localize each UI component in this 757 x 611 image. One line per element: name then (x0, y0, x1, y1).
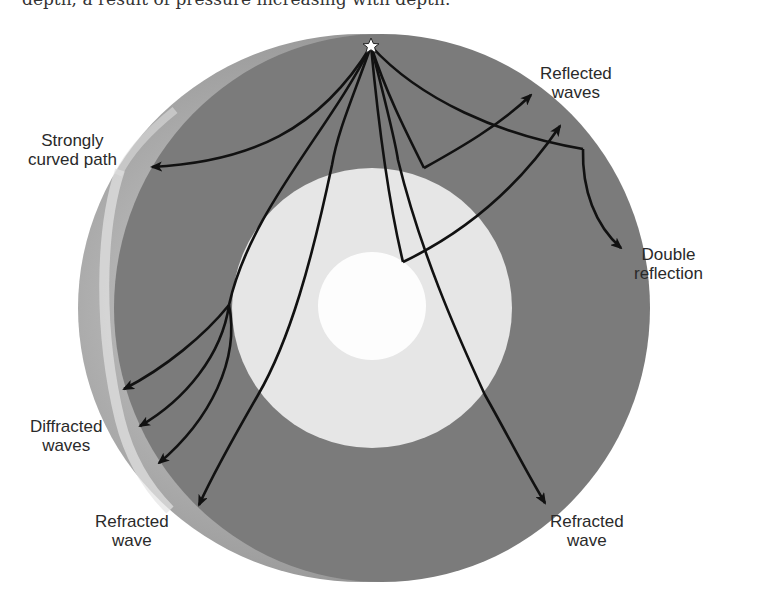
label-double-reflection: Double reflection (634, 245, 703, 283)
inner-core-layer (318, 252, 426, 360)
label-refracted-wave-left: Refracted wave (95, 512, 169, 550)
label-refracted-wave-right: Refracted wave (550, 512, 624, 550)
label-strongly-curved-path: Strongly curved path (28, 131, 117, 169)
label-diffracted-waves: Diffracted waves (30, 417, 102, 455)
label-reflected-waves: Reflected waves (540, 64, 612, 102)
